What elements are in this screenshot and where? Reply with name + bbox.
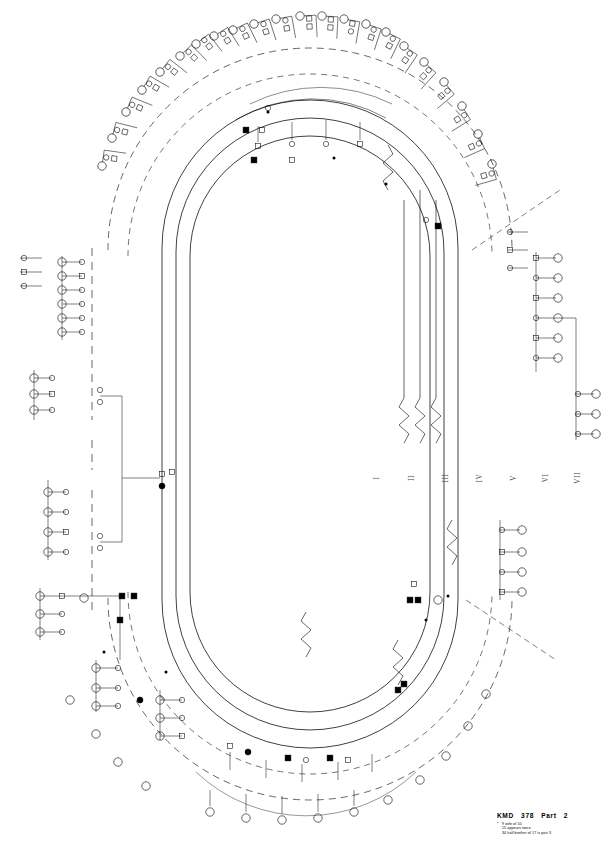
pedigree-cluster-right xyxy=(401,229,600,687)
central-axis-lines xyxy=(301,145,457,685)
legend-note-text-1: 15 appears twice xyxy=(502,826,531,830)
generation-label-v: V xyxy=(509,475,518,481)
generation-label-iii: III xyxy=(441,474,450,483)
legend-notes: *9 wife of 10 15 appears twice 34 half b… xyxy=(497,822,613,835)
generation-label-ii: II xyxy=(407,475,416,481)
generation-labels: I II III IV V VI VII xyxy=(372,472,582,484)
generation-label-vi: VI xyxy=(541,474,550,483)
legend-note-text-2: 34 half brother of 17 is part 3 xyxy=(502,831,551,835)
chart-title: KMD 378 Part 2 xyxy=(497,812,613,819)
pedigree-drawing: I II III IV V VI VII xyxy=(0,0,613,862)
generation-label-i: I xyxy=(372,477,381,480)
generation-label-vii: VII xyxy=(573,472,582,484)
pedigree-canvas: I II III IV V VI VII KMD 378 Part 2 *9 w… xyxy=(0,0,613,862)
chart-legend: KMD 378 Part 2 *9 wife of 10 15 appears … xyxy=(497,812,613,835)
inner-scattered-nodes xyxy=(169,105,449,693)
pedigree-cluster-top xyxy=(97,11,500,210)
legend-note-text-0: 9 wife of 10 xyxy=(502,822,522,826)
legend-note-2: 34 half brother of 17 is part 3 xyxy=(497,831,613,835)
generation-label-iv: IV xyxy=(475,473,484,482)
